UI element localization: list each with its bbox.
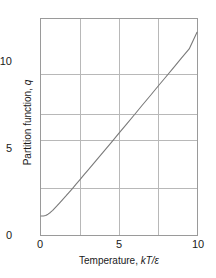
x-tick-label-0: 0 [25, 239, 55, 250]
y-axis-title-prefix: Partition function, [22, 85, 33, 165]
x-axis-title: Temperature, kT/ε [40, 255, 198, 266]
partition-function-curve [41, 19, 197, 235]
x-axis-title-prefix: Temperature, [79, 255, 141, 266]
y-axis-title-symbol: q [22, 80, 33, 86]
x-tick-label-10: 10 [183, 239, 213, 250]
y-tick-label-10: 10 [0, 56, 12, 67]
partition-function-chart: 10 5 0 0 5 10 Temperature, kT/ε Partitio… [0, 0, 216, 278]
y-tick-label-5: 5 [0, 143, 12, 154]
plot-area [40, 18, 198, 236]
x-axis-title-symbol: kT/ε [141, 255, 159, 266]
x-tick-label-5: 5 [104, 239, 134, 250]
y-axis-title: Partition function, q [22, 33, 33, 213]
y-tick-label-0: 0 [0, 230, 12, 241]
